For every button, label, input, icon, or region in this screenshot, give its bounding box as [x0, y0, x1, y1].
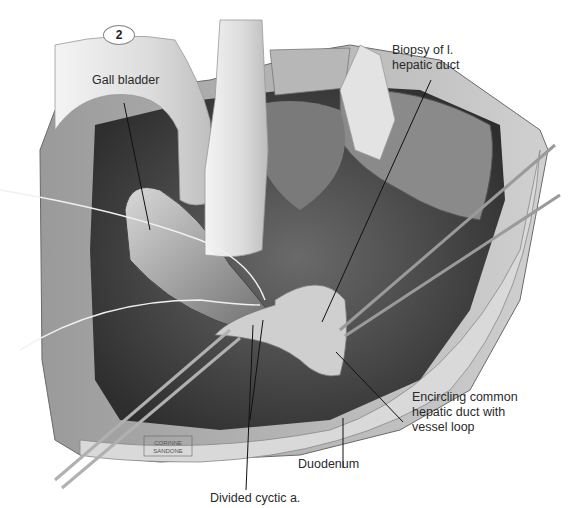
- label-encircling-line3: vessel loop: [412, 420, 475, 435]
- label-duodenum: Duodenum: [298, 457, 359, 472]
- label-gall-bladder: Gall bladder: [92, 73, 159, 88]
- label-biopsy-line2: hepatic duct: [392, 58, 459, 73]
- figure-number-badge: 2: [103, 25, 135, 45]
- svg-text:SANDONE: SANDONE: [153, 448, 183, 454]
- retractor-center: [205, 20, 268, 257]
- label-encircling-line2: hepatic duct with: [412, 405, 505, 420]
- label-divided-cystic: Divided cyctic a.: [210, 491, 300, 506]
- surgical-illustration: CORINNE SANDONE: [0, 0, 577, 508]
- artist-signature: CORINNE: [154, 440, 182, 446]
- label-encircling-line1: Encircling common: [412, 390, 518, 405]
- label-biopsy-line1: Biopsy of l.: [392, 43, 453, 58]
